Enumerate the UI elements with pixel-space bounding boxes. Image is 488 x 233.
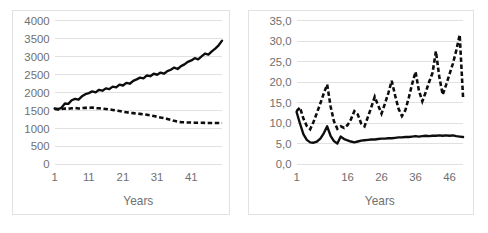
x-axis-tick-label: 1	[293, 171, 299, 183]
series-line-dashed	[297, 35, 464, 129]
y-axis-tick-label: 15,0	[269, 97, 291, 109]
series-line-solid	[297, 112, 464, 144]
x-axis-tick-label: 36	[409, 171, 422, 183]
y-axis-tick-label: 1500	[24, 105, 49, 117]
y-axis-tick-label: 2000	[24, 87, 49, 99]
line-chart-left: 4000350030002500200015001000500011121314…	[13, 11, 229, 214]
x-axis-tick-label: 11	[83, 171, 95, 183]
y-axis-tick-label: 35,0	[269, 15, 291, 27]
y-axis-tick-label: 10,0	[269, 117, 291, 129]
y-axis-tick-label: 1000	[24, 123, 49, 135]
y-axis-tick-label: 3500	[24, 33, 49, 45]
y-axis-tick-label: 5,0	[276, 138, 292, 150]
x-axis-tick-label: 41	[185, 171, 198, 183]
x-axis-title: Years	[123, 194, 153, 208]
y-axis-tick-label: 30,0	[269, 35, 291, 47]
x-axis-tick-label: 21	[117, 171, 130, 183]
y-axis-tick-label: 3000	[24, 51, 49, 63]
chart-panel-left: 4000350030002500200015001000500011121314…	[12, 10, 230, 215]
y-axis-tick-label: 0	[43, 158, 49, 170]
figure-container: 4000350030002500200015001000500011121314…	[0, 0, 488, 233]
y-axis-tick-label: 25,0	[269, 56, 291, 68]
chart-panel-right: 35,030,025,020,015,010,05,00,0116263646Y…	[248, 10, 474, 215]
line-chart-right: 35,030,025,020,015,010,05,00,0116263646Y…	[249, 11, 473, 214]
series-line-dashed	[55, 108, 222, 123]
x-axis-tick-label: 26	[375, 171, 388, 183]
x-axis-title: Years	[365, 194, 395, 208]
y-axis-tick-label: 500	[31, 141, 50, 153]
y-axis-tick-label: 4000	[24, 15, 49, 27]
x-axis-tick-label: 1	[51, 171, 57, 183]
x-axis-tick-label: 16	[341, 171, 354, 183]
x-axis-tick-label: 31	[151, 171, 164, 183]
y-axis-tick-label: 0,0	[276, 158, 292, 170]
y-axis-tick-label: 2500	[24, 69, 49, 81]
x-axis-tick-label: 46	[443, 171, 456, 183]
y-axis-tick-label: 20,0	[269, 76, 291, 88]
